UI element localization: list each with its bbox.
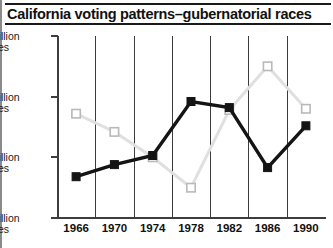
chart-figure: California voting patterns–gubernatorial… — [0, 0, 333, 248]
y-axis-label: 2millionvotes — [0, 213, 46, 235]
x-axis-label: 1970 — [94, 222, 134, 234]
light-series-marker — [302, 105, 310, 113]
x-axis-label: 1978 — [171, 222, 211, 234]
x-axis-label: 1982 — [209, 222, 249, 234]
dark-series-marker — [302, 122, 310, 130]
chart-title-bar: California voting patterns–gubernatorial… — [5, 3, 331, 25]
x-axis-label: 1986 — [248, 222, 288, 234]
x-axis-label: 1974 — [133, 222, 173, 234]
dark-series-marker — [110, 161, 118, 169]
light-series-marker — [187, 184, 195, 192]
dark-series-marker — [149, 152, 157, 160]
series-layer — [57, 36, 325, 218]
dark-series-marker — [187, 98, 195, 106]
light-series-marker — [263, 62, 271, 70]
y-axis-label: 4millionvotes — [0, 92, 46, 114]
dark-series-marker — [264, 164, 272, 172]
light-series-marker — [110, 128, 118, 136]
y-axis-label: 5millionvotes — [0, 31, 46, 53]
dark-series-marker — [72, 173, 80, 181]
page-title: California voting patterns–gubernatorial… — [5, 7, 311, 22]
plot-area — [57, 36, 325, 218]
x-axis-label: 1966 — [56, 222, 96, 234]
x-axis-label: 1990 — [286, 222, 326, 234]
light-series-marker — [72, 110, 80, 118]
dark-series-marker — [225, 104, 233, 112]
y-axis-label: 3millionvotes — [0, 152, 46, 174]
